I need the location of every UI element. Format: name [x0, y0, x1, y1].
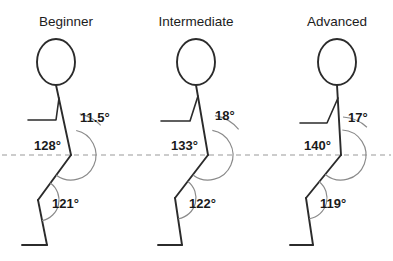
shank-intermediate: [175, 198, 182, 245]
head-beginner: [37, 39, 75, 85]
torso-advanced: [337, 85, 341, 155]
arm-beginner: [28, 98, 59, 120]
hip-angle-label-intermediate: 133°: [171, 138, 198, 153]
thigh-intermediate: [175, 155, 208, 198]
figure-panel-advanced: Advanced17°140°119°: [290, 14, 368, 245]
knee-angle-label-beginner: 121°: [52, 196, 79, 211]
arm-advanced: [300, 98, 338, 123]
trunk-angle-label-intermediate: 18°: [215, 108, 235, 123]
thigh-advanced: [306, 155, 341, 198]
posture-angle-diagram: Beginner11.5°128°121°Intermediate18°133°…: [0, 0, 393, 261]
head-intermediate: [177, 39, 215, 85]
thigh-beginner: [38, 155, 71, 200]
trunk-angle-label-advanced: 17°: [348, 110, 368, 125]
panel-title-intermediate: Intermediate: [158, 14, 233, 29]
diagram-canvas: Beginner11.5°128°121°Intermediate18°133°…: [0, 0, 393, 261]
panel-title-beginner: Beginner: [39, 14, 94, 29]
panels-layer: Beginner11.5°128°121°Intermediate18°133°…: [22, 14, 368, 245]
panel-title-advanced: Advanced: [307, 14, 367, 29]
head-advanced: [318, 39, 356, 85]
hip-angle-label-beginner: 128°: [34, 138, 61, 153]
knee-angle-label-intermediate: 122°: [189, 196, 216, 211]
shank-beginner: [38, 200, 47, 245]
knee-angle-label-advanced: 119°: [320, 196, 346, 211]
figure-panel-intermediate: Intermediate18°133°122°: [158, 14, 239, 245]
figure-panel-beginner: Beginner11.5°128°121°: [22, 14, 110, 245]
arm-intermediate: [161, 96, 198, 121]
shank-advanced: [306, 198, 313, 245]
hip-angle-label-advanced: 140°: [304, 138, 331, 153]
trunk-angle-label-beginner: 11.5°: [80, 110, 110, 125]
